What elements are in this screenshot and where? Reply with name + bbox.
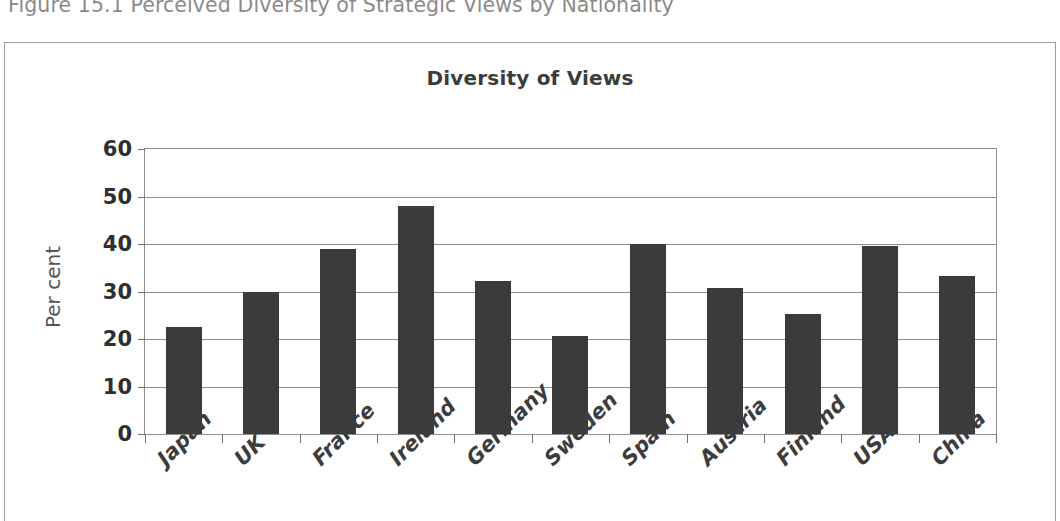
bar (320, 249, 356, 434)
figure-caption: Figure 15.1 Perceived Diversity of Strat… (8, 0, 674, 17)
x-axis-tick (377, 434, 378, 443)
x-axis-tick (145, 434, 146, 443)
bar-slot (377, 149, 454, 434)
x-axis-tick (919, 434, 920, 443)
bar (630, 244, 666, 434)
y-axis-tick-label: 60 (103, 137, 132, 161)
y-axis-tick-label: 50 (103, 185, 132, 209)
y-axis-tick (138, 434, 145, 435)
bar-slot (609, 149, 686, 434)
bar-slot (764, 149, 841, 434)
y-axis-tick (138, 244, 145, 245)
bar-slot (145, 149, 222, 434)
x-axis-tick (532, 434, 533, 443)
figure-container: Diversity of Views Per cent 605040302010… (4, 42, 1056, 521)
y-axis-tick-label: 10 (103, 375, 132, 399)
y-axis-tick-label: 20 (103, 327, 132, 351)
y-axis-title: Per cent (41, 227, 65, 347)
bar (243, 292, 279, 435)
bar-slot (841, 149, 918, 434)
y-axis-tick-label: 30 (103, 280, 132, 304)
bar-slot (300, 149, 377, 434)
bar-slot (222, 149, 299, 434)
y-axis-tick-label: 40 (103, 232, 132, 256)
y-axis-tick (138, 387, 145, 388)
x-axis-tick (222, 434, 223, 443)
bar (862, 246, 898, 434)
plot-area: 6050403020100 JapanUKFranceIrelandGerman… (144, 148, 997, 435)
x-axis-tick (300, 434, 301, 443)
y-axis-tick (138, 339, 145, 340)
bar (398, 206, 434, 434)
y-axis-tick (138, 149, 145, 150)
chart-title: Diversity of Views (5, 66, 1055, 90)
x-axis-tick (454, 434, 455, 443)
x-axis-tick (609, 434, 610, 443)
bar-slot (919, 149, 996, 434)
x-axis-tick (841, 434, 842, 443)
y-axis-tick (138, 197, 145, 198)
y-axis-tick-label: 0 (117, 422, 132, 446)
x-axis-tick (996, 434, 997, 443)
bar-slot (454, 149, 531, 434)
x-axis-category-label: UK (230, 430, 271, 471)
bar-slot (687, 149, 764, 434)
x-axis-tick (764, 434, 765, 443)
y-axis-tick (138, 292, 145, 293)
x-axis-tick (687, 434, 688, 443)
